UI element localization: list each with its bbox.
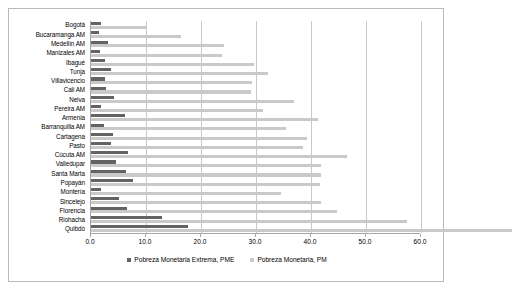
axis-tick-label: 0.0 xyxy=(85,238,94,245)
bar-pme xyxy=(91,170,126,173)
bar-group xyxy=(91,169,420,178)
axis-tick xyxy=(90,234,91,237)
bar-group xyxy=(91,76,420,85)
bar-pme xyxy=(91,216,162,219)
gridline xyxy=(421,21,422,233)
category-label: Florencia xyxy=(13,206,88,215)
category-label: Armenia xyxy=(13,114,88,123)
bar-series-container xyxy=(91,21,420,233)
bar-pme xyxy=(91,105,101,108)
bar-pm xyxy=(91,72,268,75)
axis-tick-label: 60.0 xyxy=(414,238,427,245)
category-label: Cali AM xyxy=(13,86,88,95)
bar-pme xyxy=(91,225,188,228)
bar-group xyxy=(91,104,420,113)
category-label: Santa Marta xyxy=(13,169,88,178)
category-label: Cartagena xyxy=(13,132,88,141)
category-label: Ibagué xyxy=(13,58,88,67)
category-axis: BogotáBucaramanga AMMedellín AMManizales… xyxy=(13,21,88,234)
category-label: Bucaramanga AM xyxy=(13,30,88,39)
bar-group xyxy=(91,95,420,104)
category-label: Quibdó xyxy=(13,225,88,234)
category-label: Pereira AM xyxy=(13,104,88,113)
bar-pm xyxy=(91,35,181,38)
bar-group xyxy=(91,67,420,76)
bar-group xyxy=(91,30,420,39)
bar-pm xyxy=(91,229,512,232)
bar-pm xyxy=(91,210,337,213)
axis-tick-label: 50.0 xyxy=(359,238,372,245)
axis-tick xyxy=(365,234,366,237)
bar-pm xyxy=(91,109,263,112)
legend-label: Pobreza Monetaria, PM xyxy=(257,256,326,263)
category-label: Neiva xyxy=(13,95,88,104)
bar-pm xyxy=(91,63,254,66)
bar-pme xyxy=(91,59,105,62)
category-label: Manizales AM xyxy=(13,49,88,58)
axis-tick xyxy=(310,234,311,237)
bar-group xyxy=(91,205,420,214)
axis-tick-label: 20.0 xyxy=(194,238,207,245)
legend-item[interactable]: Pobreza Monetaria, PM xyxy=(250,256,326,263)
bar-pm xyxy=(91,173,321,176)
axis-tick-label: 30.0 xyxy=(249,238,262,245)
category-label: Sincelejo xyxy=(13,197,88,206)
bar-pm xyxy=(91,81,252,84)
bar-pme xyxy=(91,207,127,210)
bar-pm xyxy=(91,146,303,149)
axis-tick-label: 10.0 xyxy=(139,238,152,245)
bar-group xyxy=(91,113,420,122)
bar-pme xyxy=(91,50,100,53)
bar-pme xyxy=(91,31,99,34)
bar-pme xyxy=(91,68,111,71)
axis-tick xyxy=(145,234,146,237)
bar-pme xyxy=(91,142,111,145)
category-label: Cúcuta AM xyxy=(13,151,88,160)
category-label: Medellín AM xyxy=(13,40,88,49)
bar-group xyxy=(91,21,420,30)
bar-group xyxy=(91,86,420,95)
bar-pme xyxy=(91,160,116,163)
category-label: Popayán xyxy=(13,179,88,188)
bar-group xyxy=(91,224,420,233)
bar-pme xyxy=(91,114,125,117)
bar-pme xyxy=(91,133,113,136)
bar-pm xyxy=(91,118,318,121)
plot-area xyxy=(90,21,420,234)
axis-tick xyxy=(200,234,201,237)
bar-group xyxy=(91,49,420,58)
bar-pm xyxy=(91,164,321,167)
bar-pm xyxy=(91,26,147,29)
bar-pm xyxy=(91,44,224,47)
legend-item[interactable]: Pobreza Monetaria Extrema, PME xyxy=(127,256,234,263)
bar-group xyxy=(91,196,420,205)
bar-pme xyxy=(91,41,108,44)
bar-pme xyxy=(91,22,101,25)
category-label: Valledupar xyxy=(13,160,88,169)
bar-pm xyxy=(91,127,286,130)
axis-tick-label: 40.0 xyxy=(304,238,317,245)
category-label: Montería xyxy=(13,188,88,197)
category-label: Villavicencio xyxy=(13,77,88,86)
bar-pme xyxy=(91,188,101,191)
legend-swatch-icon xyxy=(250,258,254,262)
bar-pm xyxy=(91,192,281,195)
bar-pme xyxy=(91,87,106,90)
bar-group xyxy=(91,132,420,141)
bar-pm xyxy=(91,183,320,186)
bar-group xyxy=(91,159,420,168)
category-label: Pasto xyxy=(13,141,88,150)
bar-pme xyxy=(91,197,119,200)
axis-tick xyxy=(255,234,256,237)
legend-label: Pobreza Monetaria Extrema, PME xyxy=(134,256,234,263)
chart-container: BogotáBucaramanga AMMedellín AMManizales… xyxy=(8,8,444,282)
bar-pm xyxy=(91,220,407,223)
bar-group xyxy=(91,178,420,187)
bar-group xyxy=(91,39,420,48)
bar-pme xyxy=(91,96,114,99)
category-label: Barranquilla AM xyxy=(13,123,88,132)
bar-pme xyxy=(91,77,105,80)
chart-plot-wrapper: BogotáBucaramanga AMMedellín AMManizales… xyxy=(9,9,445,283)
bar-pme xyxy=(91,179,133,182)
chart-legend: Pobreza Monetaria Extrema, PMEPobreza Mo… xyxy=(9,256,445,263)
